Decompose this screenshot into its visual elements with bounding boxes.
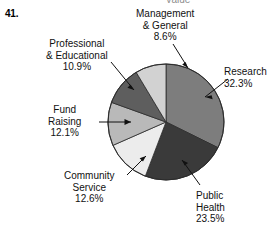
slice-value-label: 23.5% [196, 213, 225, 225]
slice-label-line: Health [196, 202, 225, 214]
slice-label-line: Management [136, 8, 194, 20]
slice-label-line: Service [64, 182, 115, 194]
slice-label-professional-educational: Professional & Educational 10.9% [46, 38, 108, 73]
slice-label-line: & General [136, 20, 194, 32]
slice-value-label: 10.9% [46, 61, 108, 73]
slice-value-label: 32.3% [224, 78, 267, 90]
slice-value-label: 12.1% [48, 127, 81, 139]
slice-label-research: Research 32.3% [224, 66, 267, 89]
slice-label-line: & Educational [46, 50, 108, 62]
slice-label-line: Professional [46, 38, 108, 50]
slice-label-line: Fund [48, 104, 81, 116]
slice-label-community-service: Community Service 12.6% [64, 170, 115, 205]
slice-label-management-general: Management & General 8.6% [136, 8, 194, 43]
slice-label-fund-raising: Fund Raising 12.1% [48, 104, 81, 139]
slice-label-line: Community [64, 170, 115, 182]
slice-value-label: 8.6% [136, 31, 194, 43]
slice-label-line: Research [224, 66, 267, 78]
slice-label-public-health: Public Health 23.5% [196, 190, 225, 225]
slice-label-line: Raising [48, 116, 81, 128]
slice-label-line: Public [196, 190, 225, 202]
slice-value-label: 12.6% [64, 193, 115, 205]
pie-chart-figure: Value 41. Management & General 8. [0, 0, 278, 235]
